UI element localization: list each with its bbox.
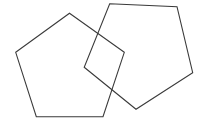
diagram-canvas	[0, 0, 203, 131]
left-pentagon	[16, 13, 125, 116]
right-pentagon	[84, 4, 193, 110]
